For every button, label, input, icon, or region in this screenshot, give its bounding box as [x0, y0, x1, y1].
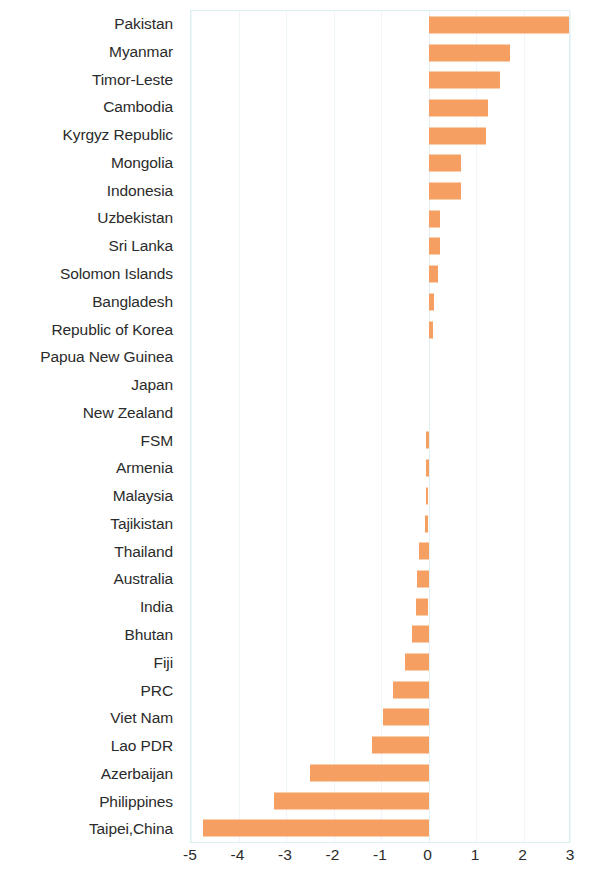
bar	[429, 210, 441, 227]
bar	[393, 681, 429, 698]
category-label: New Zealand	[0, 399, 182, 427]
bar-row	[191, 510, 569, 538]
bar-row	[191, 39, 569, 67]
category-label: Lao PDR	[0, 732, 182, 760]
bar	[383, 709, 428, 726]
x-tick-label: 1	[471, 847, 480, 863]
bar-row	[191, 150, 569, 178]
bar-row	[191, 482, 569, 510]
bar	[274, 792, 428, 809]
category-label: Solomon Islands	[0, 260, 182, 288]
category-label: Armenia	[0, 454, 182, 482]
bar	[419, 543, 429, 560]
category-label: Australia	[0, 565, 182, 593]
bar	[429, 183, 461, 200]
gridline	[570, 11, 571, 842]
x-tick-label: -2	[326, 847, 340, 863]
bar-row	[191, 704, 569, 732]
bar	[372, 737, 429, 754]
bar	[310, 764, 429, 781]
bar-row	[191, 371, 569, 399]
category-label: Uzbekistan	[0, 204, 182, 232]
x-tick-label: 2	[518, 847, 527, 863]
bar-row	[191, 288, 569, 316]
bar	[429, 293, 435, 310]
bar-row	[191, 787, 569, 815]
x-tick-label: -5	[183, 847, 197, 863]
bar	[416, 598, 429, 615]
category-label: Indonesia	[0, 177, 182, 205]
x-tick-label: -3	[278, 847, 292, 863]
bar-row	[191, 565, 569, 593]
bar-row	[191, 343, 569, 371]
bar	[417, 570, 429, 587]
bar-row	[191, 94, 569, 122]
category-label: Fiji	[0, 649, 182, 677]
x-tick-label: -4	[231, 847, 245, 863]
bar	[429, 44, 511, 61]
bar	[429, 72, 500, 89]
category-label: Papua New Guinea	[0, 343, 182, 371]
category-label: Japan	[0, 371, 182, 399]
bar	[426, 432, 428, 449]
category-label: Pakistan	[0, 10, 182, 38]
bar	[429, 266, 439, 283]
bar	[429, 155, 461, 172]
bar	[203, 820, 429, 837]
bar-row	[191, 205, 569, 233]
category-label: Mongolia	[0, 149, 182, 177]
category-label: Bangladesh	[0, 288, 182, 316]
bar	[429, 321, 434, 338]
bar-row	[191, 122, 569, 150]
bar-row	[191, 814, 569, 842]
bar-row	[191, 260, 569, 288]
bar-row	[191, 66, 569, 94]
bar-row	[191, 676, 569, 704]
bar	[412, 626, 429, 643]
bar-row	[191, 177, 569, 205]
x-tick-label: 3	[566, 847, 575, 863]
category-label: Tajikistan	[0, 510, 182, 538]
category-label: Philippines	[0, 787, 182, 815]
bar	[425, 515, 428, 532]
bar	[426, 487, 429, 504]
category-label: Timor-Leste	[0, 66, 182, 94]
bar-row	[191, 620, 569, 648]
category-label: Malaysia	[0, 482, 182, 510]
bar-row	[191, 648, 569, 676]
bar-row	[191, 316, 569, 344]
category-label: Viet Nam	[0, 704, 182, 732]
bar-row	[191, 593, 569, 621]
bar-row	[191, 454, 569, 482]
bar	[429, 127, 486, 144]
bar-row	[191, 399, 569, 427]
bar	[426, 460, 428, 477]
bar	[429, 238, 441, 255]
category-label: Myanmar	[0, 38, 182, 66]
category-label: Azerbaijan	[0, 760, 182, 788]
category-label: Thailand	[0, 538, 182, 566]
category-label: Cambodia	[0, 93, 182, 121]
category-label: Bhutan	[0, 621, 182, 649]
plot-area	[190, 10, 570, 843]
value-axis: -5-4-3-2-10123	[190, 844, 570, 873]
bar-row	[191, 731, 569, 759]
bar-chart: PakistanMyanmarTimor-LesteCambodiaKyrgyz…	[0, 0, 589, 873]
category-label: Republic of Korea	[0, 315, 182, 343]
bar	[429, 16, 569, 33]
category-axis-labels: PakistanMyanmarTimor-LesteCambodiaKyrgyz…	[0, 10, 182, 843]
bar-row	[191, 537, 569, 565]
x-tick-label: 0	[423, 847, 432, 863]
bar-row	[191, 233, 569, 261]
bar-row	[191, 427, 569, 455]
bar-row	[191, 11, 569, 39]
category-label: Kyrgyz Republic	[0, 121, 182, 149]
category-label: Sri Lanka	[0, 232, 182, 260]
x-tick-label: -1	[373, 847, 387, 863]
category-label: India	[0, 593, 182, 621]
bar	[429, 99, 488, 116]
category-label: FSM	[0, 426, 182, 454]
category-label: PRC	[0, 676, 182, 704]
bar-row	[191, 759, 569, 787]
bar	[405, 654, 429, 671]
